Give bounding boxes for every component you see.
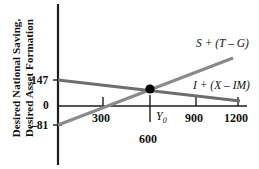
x-tick-label-1200: 1200 xyxy=(224,112,248,124)
equilibrium-point-marker xyxy=(145,84,154,93)
chart-figure: Desired National Saving, Desired Asset F… xyxy=(0,0,259,169)
curve-label-saving: S + (T – G) xyxy=(196,38,249,50)
y-tick-label-147: 147 xyxy=(31,75,48,87)
equilibrium-x-label-symbol: Y xyxy=(156,109,163,123)
equilibrium-x-label: Y0 xyxy=(156,110,167,125)
x-tick-label-300: 300 xyxy=(92,112,110,124)
x-tick-label-600: 600 xyxy=(139,133,157,145)
curve-label-investment: I + (X – IM) xyxy=(193,80,250,92)
x-tick-label-900: 900 xyxy=(185,112,203,124)
y-tick-label-minus81: –81 xyxy=(31,120,48,132)
y-tick-label-0: 0 xyxy=(43,100,49,112)
equilibrium-x-label-subscript: 0 xyxy=(163,116,167,125)
